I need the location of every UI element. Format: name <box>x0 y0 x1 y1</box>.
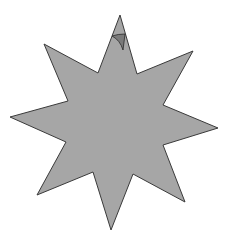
eight-point-star-shape[interactable] <box>10 15 218 230</box>
star-diagram <box>0 0 235 247</box>
drawing-canvas <box>0 0 235 247</box>
